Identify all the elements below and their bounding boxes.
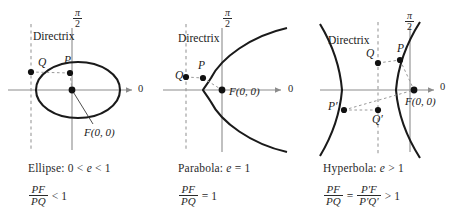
ellipse-axis-label-zero: 0 [138, 83, 143, 94]
ellipse-caption-eccentricity: e [87, 162, 92, 174]
ellipse-caption: Ellipse: 0 < e < 1 [28, 162, 111, 174]
hyperbola-label-q-prime: Q′ [372, 113, 383, 125]
hyperbola-fraction-denominator-prime: P′Q′ [357, 195, 380, 207]
ellipse-caption-rel2: < [95, 162, 102, 174]
hyperbola-ratio-formula: PF PQ = P′F P′Q′ > 1 [323, 184, 400, 208]
parabola-fraction-denominator: PQ [179, 195, 198, 207]
hyperbola-label-p: P [397, 42, 404, 54]
hyperbola-directrix-label: Directrix [328, 34, 370, 46]
hyperbola-caption-prefix: Hyperbola: [323, 162, 377, 174]
ellipse-point-q [28, 69, 34, 75]
parabola-two-symbol: 2 [223, 18, 232, 29]
ellipse-pi-over-2-label: π 2 [73, 8, 82, 29]
parabola-label-p: P [198, 59, 205, 71]
parabola-axis-label-zero: 0 [288, 83, 293, 94]
hyperbola-pi-over-2-label: π 2 [405, 11, 414, 32]
hyperbola-fraction-numerator-prime: P′F [359, 184, 379, 195]
hyperbola-fraction-numerator: PF [325, 184, 342, 195]
parabola-pi-over-2-label: π 2 [223, 8, 232, 29]
ellipse-pi-symbol: π [73, 8, 82, 18]
parabola-pi-symbol: π [223, 8, 232, 18]
parabola-caption-eccentricity: e [226, 162, 231, 174]
hyperbola-segment-pf [400, 60, 414, 90]
hyperbola-label-p-prime: P′ [328, 100, 338, 112]
ellipse-point-f [69, 87, 76, 94]
parabola-point-p [200, 75, 206, 81]
hyperbola-ratio-value: 1 [394, 190, 400, 202]
hyperbola-point-f [411, 87, 418, 94]
ellipse-label-focus: F(0, 0) [84, 126, 115, 138]
ellipse-fraction-numerator: PF [30, 184, 47, 195]
hyperbola-point-p-prime [341, 107, 347, 113]
parabola-caption-rel1: = [235, 162, 242, 174]
ellipse-point-p [67, 70, 73, 76]
ellipse-caption-left: 0 [68, 162, 74, 174]
ellipse-two-symbol: 2 [73, 18, 82, 29]
hyperbola-caption: Hyperbola: e > 1 [323, 162, 404, 174]
hyperbola-pi-symbol: π [405, 11, 414, 21]
ellipse-caption-rel1: < [77, 162, 84, 174]
ellipse-label-q: Q [38, 56, 46, 68]
hyperbola-focus-text: F(0, 0) [405, 95, 436, 107]
parabola-caption-prefix: Parabola: [178, 162, 223, 174]
parabola-fraction-numerator: PF [180, 184, 197, 195]
parabola-ratio-value: 1 [211, 190, 217, 202]
panel-hyperbola: π 2 Directrix 0 Q P F(0, 0) P′ Q′ Hyperb… [310, 0, 460, 222]
hyperbola-point-q [375, 60, 381, 66]
hyperbola-fraction-pf-pq: PF PQ [324, 184, 343, 208]
parabola-fraction-pf-pq: PF PQ [179, 184, 198, 208]
ellipse-fraction-pf-pq: PF PQ [29, 184, 48, 208]
hyperbola-caption-right: 1 [398, 162, 404, 174]
ellipse-ratio-formula: PF PQ < 1 [28, 184, 67, 208]
parabola-point-f [219, 87, 226, 94]
hyperbola-axis-label-zero: 0 [440, 81, 445, 92]
parabola-label-q: Q [175, 69, 183, 81]
ellipse-fraction-denominator: PQ [29, 195, 48, 207]
parabola-caption-right: 1 [244, 162, 250, 174]
ellipse-segment-pq [31, 72, 70, 73]
hyperbola-segment-pf-prime [344, 90, 414, 110]
parabola-focus-text: F(0, 0) [229, 85, 260, 97]
panel-ellipse: π 2 Directrix 0 Q P F(0, 0) Ellipse: 0 <… [0, 0, 155, 222]
parabola-ratio-formula: PF PQ = 1 [178, 184, 217, 208]
ellipse-ratio-relation: < [52, 190, 59, 202]
hyperbola-point-p [397, 57, 403, 63]
hyperbola-ratio-relation: = [347, 190, 354, 202]
parabola-directrix-label: Directrix [178, 32, 220, 44]
conic-sections-figure: π 2 Directrix 0 Q P F(0, 0) Ellipse: 0 <… [0, 0, 460, 222]
parabola-ratio-relation: = [202, 190, 209, 202]
ellipse-caption-prefix: Ellipse: [28, 162, 65, 174]
hyperbola-fraction-pf-pq-prime: P′F P′Q′ [357, 184, 380, 208]
hyperbola-fraction-denominator: PQ [324, 195, 343, 207]
ellipse-ratio-value: 1 [61, 190, 67, 202]
parabola-caption: Parabola: e = 1 [178, 162, 250, 174]
ellipse-focus-text: F(0, 0) [84, 126, 115, 138]
hyperbola-two-symbol: 2 [405, 21, 414, 32]
hyperbola-caption-eccentricity: e [380, 162, 385, 174]
ellipse-graph [0, 0, 155, 222]
hyperbola-segment-pq [378, 60, 400, 63]
hyperbola-label-q: Q [366, 47, 374, 59]
ellipse-label-p: P [64, 54, 71, 66]
hyperbola-caption-rel1: > [388, 162, 395, 174]
ellipse-caption-right: 1 [105, 162, 111, 174]
parabola-point-q [183, 74, 189, 80]
panel-parabola: π 2 Directrix 0 Q P F(0, 0) Parabola: e … [155, 0, 310, 222]
hyperbola-label-focus: F(0, 0) [405, 95, 436, 107]
parabola-label-focus: F(0, 0) [229, 85, 260, 97]
ellipse-directrix-label: Directrix [33, 30, 75, 42]
hyperbola-ratio-relation-2: > [385, 190, 392, 202]
